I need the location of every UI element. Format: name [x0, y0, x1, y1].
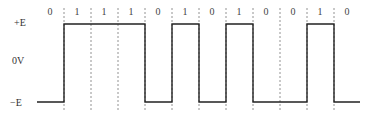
bit-label: 0: [291, 6, 296, 17]
nrz-waveform-diagram: +E 0V −E 0 1 1 1 0 1 0 1 0 0: [0, 0, 370, 119]
bit-label: 1: [129, 6, 134, 17]
signal-waveform: [37, 24, 360, 102]
bit-label: 0: [345, 6, 350, 17]
bit-label: 0: [264, 6, 269, 17]
bit-labels: 0 1 1 1 0 1 0 1 0 0 1 0: [48, 6, 350, 17]
bit-label: 0: [48, 6, 53, 17]
bit-label: 1: [183, 6, 188, 17]
bit-label: 0: [156, 6, 161, 17]
bit-label: 1: [102, 6, 107, 17]
level-label-low: −E: [10, 97, 22, 108]
bit-label: 1: [75, 6, 80, 17]
level-label-zero: 0V: [12, 55, 25, 66]
bit-label: 1: [237, 6, 242, 17]
bit-label: 1: [318, 6, 323, 17]
level-label-high: +E: [14, 17, 26, 28]
bit-label: 0: [210, 6, 215, 17]
waveform-canvas: +E 0V −E 0 1 1 1 0 1 0 1 0 0: [0, 0, 370, 119]
